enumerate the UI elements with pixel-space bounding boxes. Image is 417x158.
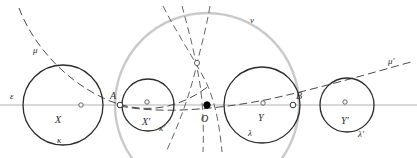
point-marker-B	[290, 102, 296, 108]
label-Y-prime: Y′	[341, 115, 350, 126]
label-X-prime: X′	[141, 116, 151, 127]
label-O: O	[201, 113, 208, 124]
geometry-figure: ε μ μ′ ν X κ A X′ κ′ O Y λ B Y′ λ′	[0, 0, 417, 158]
point-marker-m1	[79, 103, 83, 107]
label-lambda-prime: λ′	[357, 129, 365, 139]
point-marker-O	[204, 102, 210, 108]
label-mu: μ	[32, 45, 38, 55]
point-marker-A	[117, 102, 123, 108]
label-lambda: λ	[247, 128, 252, 138]
label-X: X	[54, 114, 62, 125]
label-B: B	[296, 90, 302, 101]
point-marker-m4	[343, 100, 347, 104]
point-marker-P	[194, 60, 199, 65]
point-marker-m3	[261, 101, 265, 105]
label-kappa-prime: κ′	[159, 123, 166, 133]
point-marker-m2	[145, 100, 149, 104]
label-mu-prime: μ′	[387, 56, 396, 66]
label-nu: ν	[250, 15, 254, 25]
label-A: A	[109, 90, 117, 101]
label-epsilon: ε	[10, 91, 14, 101]
label-kappa: κ	[57, 135, 62, 145]
